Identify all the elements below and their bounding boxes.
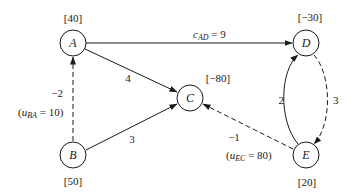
edge-e-c-capacity: (uEC = 80) <box>226 149 272 163</box>
node-b: B [50] <box>60 142 86 187</box>
node-b-label: B <box>69 148 77 162</box>
node-b-supply: [50] <box>64 175 82 187</box>
node-e: E [20] <box>293 142 319 188</box>
node-d: D [−30] <box>293 11 322 56</box>
node-a: A [40] <box>60 12 86 56</box>
node-a-supply: [40] <box>64 12 82 24</box>
edge-e-d <box>284 55 298 144</box>
edge-e-d-cost: 2 <box>279 94 285 106</box>
edge-b-a-cost: −2 <box>51 87 63 99</box>
node-c-supply: [−80] <box>206 72 231 84</box>
node-c: C [−80] <box>177 72 230 111</box>
node-d-label: D <box>301 36 311 50</box>
edge-d-e-cost: 3 <box>333 94 339 106</box>
edge-b-c-cost: 3 <box>129 133 135 145</box>
edge-a-c-cost: 4 <box>125 72 131 84</box>
node-e-supply: [20] <box>298 176 316 188</box>
edge-e-c-dashed <box>203 104 293 149</box>
edge-e-c-cost: −1 <box>228 131 240 143</box>
network-diagram: A [40] B [50] C [−80] D [−30] E [20] cAD… <box>0 0 358 195</box>
node-d-supply: [−30] <box>298 11 323 23</box>
edge-a-c <box>85 49 177 92</box>
edge-d-e-dashed <box>314 55 328 144</box>
edge-a-d-cost: cAD = 9 <box>193 28 226 42</box>
node-a-label: A <box>68 36 77 50</box>
edge-b-a-capacity: (uBA = 10) <box>18 106 64 120</box>
node-e-label: E <box>301 148 310 162</box>
node-c-label: C <box>186 91 195 105</box>
